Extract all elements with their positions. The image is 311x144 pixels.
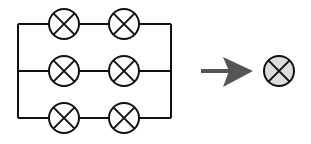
lamp-icon [49, 103, 79, 133]
arrow-right-icon [201, 57, 253, 87]
equivalent-lamp-icon [264, 56, 294, 86]
lamp-icon [109, 9, 139, 39]
lamp-icon [109, 103, 139, 133]
parallel-circuit [18, 9, 171, 133]
lamp-icon [49, 9, 79, 39]
lamp-icon [49, 56, 79, 86]
lamp-icon [109, 56, 139, 86]
circuit-diagram [0, 0, 311, 144]
